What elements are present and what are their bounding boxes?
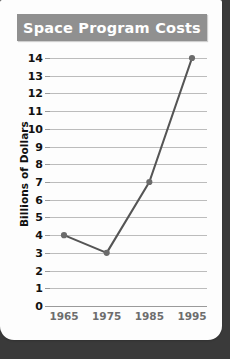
series-line bbox=[64, 58, 192, 253]
plot-area: 01234567891011121314 1965197519851995 bbox=[50, 58, 207, 306]
y-axis-tick-label: 1 bbox=[35, 282, 43, 295]
y-axis-tick-label: 8 bbox=[35, 158, 43, 171]
y-axis-tick-label: 5 bbox=[35, 211, 43, 224]
screenshot-root: Space Program Costs Billions of Dollars … bbox=[0, 0, 230, 359]
y-axis-tick-label: 6 bbox=[35, 193, 43, 206]
data-series-group bbox=[50, 58, 207, 306]
chart-card: Space Program Costs Billions of Dollars … bbox=[0, 0, 222, 340]
y-axis-tick-label: 7 bbox=[35, 176, 43, 189]
x-axis-tick-label: 1995 bbox=[177, 310, 206, 322]
y-axis-tick-label: 2 bbox=[35, 264, 43, 277]
data-point-marker bbox=[189, 55, 195, 61]
x-axis-tick-label: 1965 bbox=[49, 310, 78, 322]
page-title: Space Program Costs bbox=[23, 20, 201, 36]
gridline bbox=[50, 306, 207, 307]
data-point-marker bbox=[61, 232, 67, 238]
y-axis-tick-label: 9 bbox=[35, 140, 43, 153]
line-chart: Billions of Dollars 01234567891011121314… bbox=[0, 48, 222, 338]
y-axis-tick-label: 0 bbox=[35, 300, 43, 313]
y-axis-tick-label: 13 bbox=[28, 69, 43, 82]
y-axis-tick-label: 10 bbox=[28, 122, 43, 135]
y-axis-tick-label: 3 bbox=[35, 246, 43, 259]
data-point-marker bbox=[146, 179, 152, 185]
x-axis-tick-label: 1985 bbox=[135, 310, 164, 322]
y-axis-tick-label: 4 bbox=[35, 229, 43, 242]
data-point-marker bbox=[104, 250, 110, 256]
y-axis-tick-label: 14 bbox=[28, 52, 43, 65]
y-axis-tick-label: 12 bbox=[28, 87, 43, 100]
chart-title-banner: Space Program Costs bbox=[17, 14, 207, 41]
y-axis-tick bbox=[45, 306, 50, 307]
y-axis-tick-label: 11 bbox=[28, 105, 43, 118]
series-markers bbox=[61, 55, 195, 256]
x-axis-tick-label: 1975 bbox=[92, 310, 121, 322]
